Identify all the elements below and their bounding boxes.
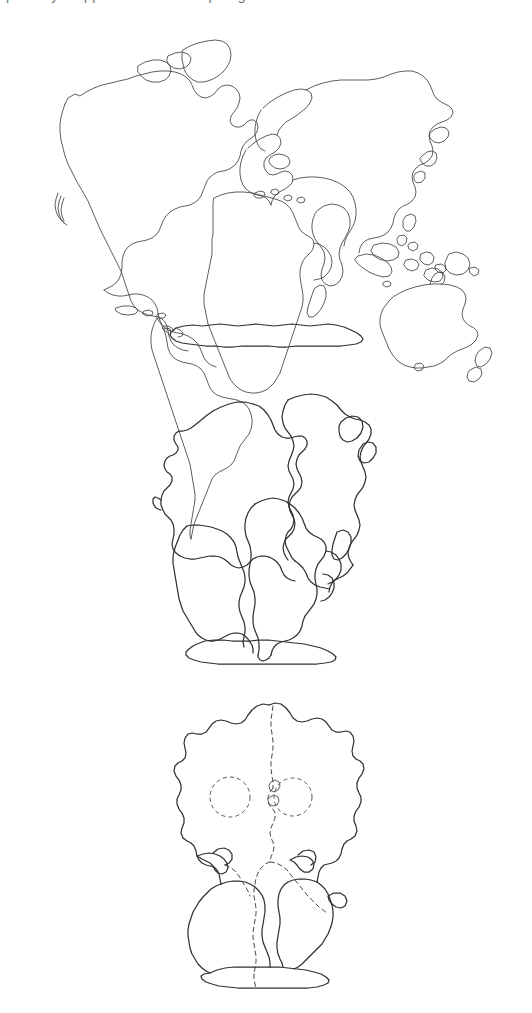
landmass-antarctica-strip	[162, 324, 363, 347]
landmass-north-america	[55, 71, 258, 367]
panel-breakup	[145, 392, 395, 677]
pangaea-notch-right	[290, 850, 316, 872]
landmass-europe	[240, 89, 312, 205]
pangaea-central-bulge	[268, 780, 280, 806]
landmass-madagascar	[307, 285, 326, 317]
breakup-south-america	[173, 525, 253, 653]
landmass-arctic-islands	[138, 52, 191, 82]
panel-present-day	[18, 38, 518, 368]
landmass-greenland	[182, 40, 231, 82]
pangaea-inland-sea-left	[210, 777, 250, 817]
continental-drift-figure: partially cropped text line at top edge	[0, 0, 532, 1013]
panel-pangaea	[150, 700, 390, 990]
landmass-australia	[380, 272, 478, 368]
cropped-caption-text: partially cropped text line at top edge	[6, 0, 306, 3]
pangaea-dashed-boundaries	[225, 706, 327, 974]
landmass-new-zealand	[414, 347, 492, 382]
breakup-north-america	[153, 402, 307, 581]
pangaea-outline	[174, 703, 364, 973]
pangaea-antarctica-base	[201, 967, 329, 988]
landmass-philippines-indonesia	[355, 214, 479, 287]
pangaea-notch-left	[197, 848, 232, 874]
landmass-japan	[414, 127, 449, 183]
